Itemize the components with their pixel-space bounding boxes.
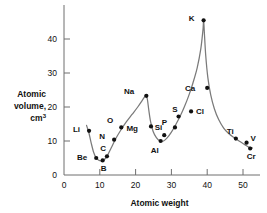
trend-curve [87,21,253,161]
point-marker [144,94,148,98]
point-marker [101,158,105,162]
x-tick-label-40: 40 [202,180,212,190]
point-label-al: Al [151,146,159,155]
point-marker [189,109,193,113]
point-marker [244,141,248,145]
point-label-p: P [162,118,168,127]
chart-canvas: 01020304001020304050Atomic weightAtomicv… [0,0,267,213]
data-point-ca: Ca [185,84,209,93]
data-point-o: O [107,116,123,129]
data-point-p: P [162,118,177,129]
point-marker [112,138,116,142]
data-point-cr: Cr [247,146,256,161]
point-marker [159,139,163,143]
y-tick-label-0: 0 [52,170,57,180]
y-tick-label-20: 20 [48,102,58,112]
point-label-cr: Cr [247,152,256,161]
point-label-na: Na [124,87,135,96]
point-label-k: K [189,14,195,23]
data-point-al: Al [151,139,163,155]
y-axis-title-line-1: Atomic [17,89,46,99]
y-axis-title-line-2: volume, [14,101,46,111]
data-point-s: S [172,105,180,119]
point-marker [248,146,252,150]
data-point-cl: Cl [189,107,204,116]
point-marker [202,18,206,22]
x-tick-label-30: 30 [167,180,177,190]
data-point-na: Na [124,87,148,98]
point-label-o: O [107,116,113,125]
point-marker [162,133,166,137]
atomic-volume-chart: 01020304001020304050Atomic weightAtomicv… [0,0,267,213]
point-marker [119,125,123,129]
x-tick-label-10: 10 [95,180,105,190]
y-tick-label-40: 40 [48,34,58,44]
point-label-s: S [172,105,178,114]
data-point-k: K [189,14,206,23]
data-point-li: Li [73,125,91,134]
y-axis-title-line-3: cm3 [30,113,46,123]
point-marker [94,156,98,160]
data-point-n: N [99,132,116,142]
point-label-c: C [100,144,106,153]
point-label-b: B [101,164,107,173]
point-label-ca: Ca [185,84,196,93]
point-marker [173,125,177,129]
x-tick-label-0: 0 [62,180,67,190]
data-point-v: V [244,134,256,145]
point-marker [234,137,238,141]
point-label-be: Be [77,153,88,162]
point-marker [105,154,109,158]
point-label-ti: Ti [227,127,234,136]
y-tick-label-10: 10 [48,136,58,146]
data-point-b: B [101,158,107,173]
point-label-n: N [99,132,105,141]
point-marker [176,114,180,118]
point-marker [149,124,153,128]
data-point-ti: Ti [227,127,238,141]
point-label-mg: Mg [126,124,138,133]
point-label-cl: Cl [196,107,204,116]
x-tick-label-20: 20 [131,180,141,190]
y-tick-label-30: 30 [48,68,58,78]
data-point-mg: Mg [126,124,153,133]
x-tick-label-50: 50 [238,180,248,190]
data-point-be: Be [77,153,98,162]
point-marker [87,129,91,133]
x-axis-title: Atomic weight [130,198,188,208]
point-label-v: V [251,134,257,143]
point-marker [205,86,209,90]
data-point-c: C [100,144,109,158]
point-label-li: Li [73,125,80,134]
